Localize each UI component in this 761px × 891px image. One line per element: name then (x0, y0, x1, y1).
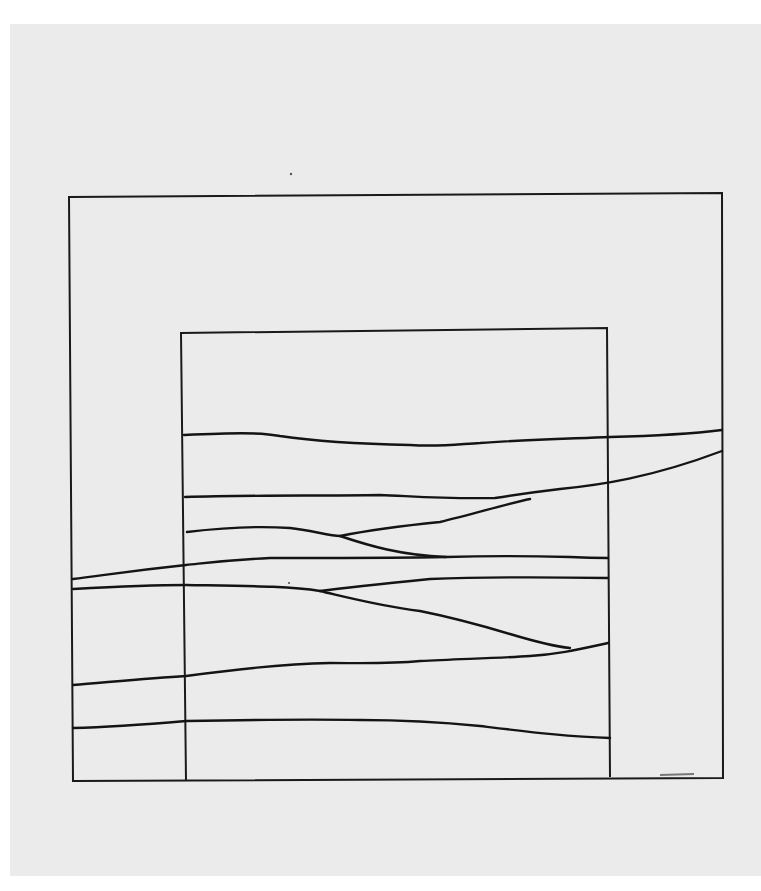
strand-1 (184, 430, 722, 446)
strand-7 (320, 577, 608, 591)
strands-group (73, 430, 722, 738)
line-drawing (0, 0, 761, 891)
strand-2 (185, 451, 722, 498)
strand-6 (73, 585, 570, 648)
speck-1 (290, 173, 292, 175)
strand-9 (73, 720, 610, 738)
inner-frame (181, 328, 610, 781)
strand-8 (73, 643, 608, 685)
outer-frame (69, 193, 723, 781)
strand-4 (340, 536, 446, 557)
bottom-smudge (660, 774, 694, 775)
strand-5 (73, 556, 608, 579)
speck-2 (288, 582, 290, 584)
strand-3 (187, 499, 530, 536)
